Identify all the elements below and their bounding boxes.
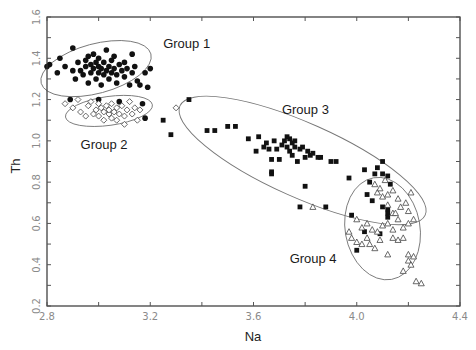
point-filled-circle bbox=[127, 82, 133, 88]
y-tick-label: 0.8 bbox=[31, 174, 42, 190]
point-filled-square bbox=[349, 213, 354, 218]
point-open-diamond bbox=[124, 107, 130, 113]
point-open-triangle bbox=[400, 268, 406, 274]
point-open-diamond bbox=[62, 101, 68, 107]
point-filled-circle bbox=[119, 68, 125, 74]
point-filled-square bbox=[305, 149, 310, 154]
point-filled-square bbox=[347, 176, 352, 181]
point-filled-square bbox=[365, 192, 370, 197]
point-open-triangle bbox=[400, 235, 406, 241]
point-filled-circle bbox=[86, 80, 92, 86]
y-tick-label: 1.6 bbox=[31, 9, 42, 25]
point-open-diamond bbox=[101, 117, 107, 123]
point-filled-circle bbox=[91, 66, 97, 72]
point-open-triangle bbox=[405, 208, 411, 214]
point-filled-square bbox=[295, 159, 300, 164]
point-filled-circle bbox=[132, 64, 138, 70]
point-filled-circle bbox=[73, 76, 79, 82]
point-filled-square bbox=[282, 138, 287, 143]
point-filled-circle bbox=[111, 53, 117, 59]
point-filled-square bbox=[334, 159, 339, 164]
y-tick-label: 0.6 bbox=[31, 215, 42, 231]
y-axis-label: Th bbox=[8, 158, 23, 173]
point-filled-circle bbox=[83, 64, 89, 70]
point-filled-circle bbox=[80, 72, 86, 78]
point-filled-circle bbox=[122, 60, 128, 66]
point-filled-circle bbox=[101, 60, 107, 66]
point-filled-square bbox=[375, 165, 380, 170]
point-filled-square bbox=[354, 248, 359, 253]
point-filled-square bbox=[279, 143, 284, 148]
point-open-triangle bbox=[390, 187, 396, 193]
point-filled-square bbox=[292, 145, 297, 150]
point-open-triangle bbox=[413, 278, 419, 284]
point-filled-square bbox=[362, 167, 367, 172]
point-filled-circle bbox=[137, 82, 143, 88]
x-axis-label: Na bbox=[245, 329, 262, 344]
point-filled-circle bbox=[116, 62, 122, 68]
point-open-triangle bbox=[403, 200, 409, 206]
x-tick-label: 4.4 bbox=[452, 311, 468, 322]
point-open-diamond bbox=[129, 111, 135, 117]
point-filled-square bbox=[287, 136, 292, 141]
point-open-triangle bbox=[364, 235, 370, 241]
point-open-diamond bbox=[134, 117, 140, 123]
point-filled-square bbox=[187, 97, 192, 102]
point-filled-square bbox=[256, 134, 261, 139]
point-filled-square bbox=[385, 211, 390, 216]
point-filled-circle bbox=[114, 72, 120, 78]
point-open-triangle bbox=[390, 235, 396, 241]
point-open-triangle bbox=[372, 181, 378, 187]
point-open-diamond bbox=[75, 97, 81, 103]
point-filled-circle bbox=[106, 76, 112, 82]
point-filled-square bbox=[285, 145, 290, 150]
point-filled-circle bbox=[142, 70, 148, 76]
point-filled-circle bbox=[124, 66, 130, 72]
point-filled-square bbox=[212, 128, 217, 133]
group-ellipse bbox=[165, 72, 440, 249]
point-open-triangle bbox=[377, 237, 383, 243]
point-filled-circle bbox=[114, 80, 120, 86]
point-filled-circle bbox=[75, 60, 81, 66]
point-filled-circle bbox=[91, 51, 97, 57]
point-filled-square bbox=[318, 155, 323, 160]
point-open-diamond bbox=[83, 113, 89, 119]
point-filled-square bbox=[380, 171, 385, 176]
y-tick-label: 0.2 bbox=[31, 298, 42, 314]
point-open-triangle bbox=[408, 189, 414, 195]
point-filled-square bbox=[264, 141, 269, 146]
point-filled-circle bbox=[147, 66, 153, 72]
point-filled-square bbox=[388, 182, 393, 187]
point-open-triangle bbox=[367, 241, 373, 247]
point-filled-square bbox=[269, 171, 274, 176]
point-open-triangle bbox=[346, 229, 352, 235]
point-filled-square bbox=[272, 138, 277, 143]
point-open-diamond bbox=[173, 105, 179, 111]
y-tick-label: 1.4 bbox=[31, 50, 42, 66]
point-filled-circle bbox=[129, 70, 135, 76]
group-label: Group 2 bbox=[81, 137, 128, 152]
point-filled-circle bbox=[122, 74, 128, 80]
point-filled-circle bbox=[142, 115, 148, 121]
point-filled-square bbox=[303, 155, 308, 160]
point-filled-circle bbox=[96, 55, 102, 61]
point-filled-square bbox=[169, 132, 174, 137]
point-filled-square bbox=[370, 198, 375, 203]
point-filled-circle bbox=[57, 55, 63, 61]
point-filled-square bbox=[290, 153, 295, 158]
y-tick-label: 0.4 bbox=[31, 257, 42, 273]
point-filled-circle bbox=[98, 66, 104, 72]
point-filled-square bbox=[261, 145, 266, 150]
point-open-triangle bbox=[369, 227, 375, 233]
point-filled-circle bbox=[111, 66, 117, 72]
point-filled-square bbox=[303, 184, 308, 189]
point-filled-square bbox=[300, 145, 305, 150]
point-filled-square bbox=[269, 157, 274, 162]
point-open-triangle bbox=[405, 251, 411, 257]
point-open-triangle bbox=[310, 204, 316, 210]
point-filled-circle bbox=[98, 82, 104, 88]
x-tick-label: 3.6 bbox=[246, 311, 262, 322]
point-filled-circle bbox=[47, 62, 53, 68]
point-filled-circle bbox=[70, 45, 76, 51]
point-filled-circle bbox=[67, 97, 73, 103]
